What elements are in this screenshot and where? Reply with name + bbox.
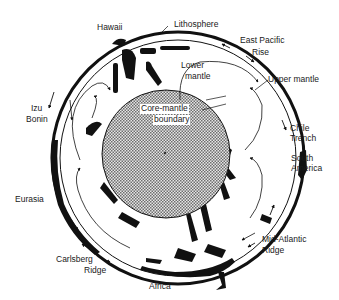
label-core-mantle: Core-mantle [140,104,189,114]
hawaii-bump [112,39,126,46]
label-lower-mantle: mantle [185,72,211,82]
label-africa: Africa [149,282,171,292]
label-upper-mantle: Upper mantle [268,75,319,85]
eurasia-plate [51,140,100,255]
label-america: America [291,164,322,174]
label-mid-atlantic: Mid-Atlantic [262,235,306,245]
mantle-convection-diagram [0,0,339,300]
label-carlsberg-ridge: Ridge [84,266,106,276]
label-boundary: boundary [153,115,190,125]
label-east-pacific: East Pacific [240,36,284,46]
label-trench: Trench [290,134,316,144]
label-eurasia: Eurasia [15,195,44,205]
label-lower: Lower [181,61,204,71]
label-hawaii: Hawaii [97,23,123,33]
inner-core-dot [164,152,166,154]
label-izu: Izu [31,104,42,114]
label-mid-atlantic-ridge: Ridge [262,246,284,256]
label-carlsberg: Carlsberg [56,255,93,265]
label-bonin: Bonin [26,115,48,125]
label-lithosphere: Lithosphere [174,20,218,30]
label-rise: Rise [252,48,269,58]
